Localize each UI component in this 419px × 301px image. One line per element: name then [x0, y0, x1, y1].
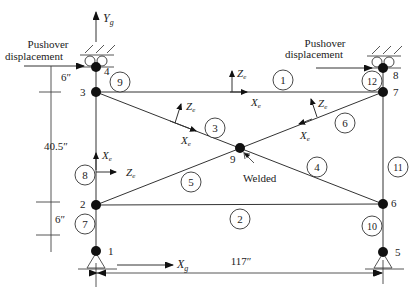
svg-text:2: 2 — [237, 213, 243, 225]
node-label-5: 5 — [395, 246, 401, 258]
node-label-9: 9 — [230, 153, 236, 165]
node-label-2: 2 — [80, 198, 86, 210]
dim-arrow-left-icon — [97, 270, 106, 277]
horizontal-dimension: 117″ — [96, 255, 383, 287]
dim-height: 40.5″ — [44, 140, 68, 152]
node-3 — [91, 87, 101, 97]
pushover-right: Pushover displacement — [285, 37, 372, 68]
element-label-5: 5 — [181, 172, 201, 192]
node-5 — [378, 247, 388, 257]
welded-label: Welded — [243, 172, 277, 184]
element-label-4: 4 — [307, 157, 327, 177]
dim-top-offset: 6″ — [61, 71, 71, 83]
welded-annotation: Welded — [243, 152, 277, 184]
svg-text:11: 11 — [393, 162, 403, 173]
global-x-axis: Xg — [117, 257, 188, 273]
pushover-right-line2: displacement — [285, 48, 343, 60]
node-label-3: 3 — [80, 86, 86, 98]
global-y-sub: g — [110, 18, 114, 27]
dim-arrow-right-icon — [373, 270, 382, 277]
pushover-left: Pushover displacement — [5, 38, 84, 66]
dim-width: 117″ — [231, 255, 252, 267]
frame-diagram: Yg Pushover disp — [0, 0, 419, 301]
svg-text:9: 9 — [117, 76, 123, 88]
svg-text:6: 6 — [342, 117, 348, 129]
element-label-3: 3 — [205, 118, 225, 138]
global-x-sub: g — [184, 264, 188, 273]
svg-text:1: 1 — [280, 74, 286, 86]
pushover-left-line1: Pushover — [28, 38, 69, 50]
node-6 — [378, 199, 388, 209]
svg-text:5: 5 — [188, 176, 194, 188]
node-1 — [91, 246, 101, 256]
svg-text:Ze: Ze — [237, 67, 246, 81]
svg-text:10: 10 — [367, 221, 377, 232]
svg-text:Ze: Ze — [318, 97, 327, 111]
node-label-1: 1 — [108, 245, 114, 257]
svg-text:Xe: Xe — [180, 134, 191, 148]
node-label-7: 7 — [393, 86, 399, 98]
svg-text:Xe: Xe — [299, 129, 310, 143]
element-label-6: 6 — [335, 113, 355, 133]
global-y-axis: Yg — [96, 11, 114, 42]
element-label-10: 10 — [362, 216, 382, 236]
local-axes-element-3: Ze Xe — [170, 100, 196, 148]
svg-text:Yg: Yg — [103, 11, 114, 27]
element-labels: 1 2 3 4 5 6 7 8 9 10 11 12 — [75, 70, 408, 236]
node-label-8: 8 — [393, 69, 399, 81]
node-label-4: 4 — [104, 65, 110, 77]
pushover-left-line2: displacement — [5, 50, 63, 62]
svg-text:Xg: Xg — [176, 257, 188, 273]
svg-text:7: 7 — [82, 218, 88, 230]
element-label-7: 7 — [75, 214, 95, 234]
element-label-1: 1 — [273, 70, 293, 90]
node-2 — [91, 200, 101, 210]
node-7 — [378, 87, 388, 97]
svg-text:Xe: Xe — [250, 96, 261, 110]
node-label-6: 6 — [391, 197, 397, 209]
node-4 — [91, 62, 101, 72]
svg-text:12: 12 — [367, 76, 377, 87]
svg-text:3: 3 — [212, 122, 218, 134]
element-label-9: 9 — [110, 72, 130, 92]
svg-text:4: 4 — [314, 161, 320, 173]
element-label-12: 12 — [362, 71, 382, 91]
node-8 — [378, 63, 388, 73]
element-label-8: 8 — [75, 165, 95, 185]
svg-text:Ze: Ze — [126, 166, 135, 180]
local-axes-element-8: Xe Ze — [96, 149, 135, 180]
svg-text:Ze: Ze — [186, 100, 195, 114]
element-label-2: 2 — [230, 209, 250, 229]
element-label-11: 11 — [388, 157, 408, 177]
bottom-beam — [96, 204, 383, 205]
svg-text:Xe: Xe — [101, 149, 112, 163]
dim-bottom-offset: 6″ — [55, 213, 65, 225]
vertical-dimensions: 6″ 40.5″ 6″ — [36, 66, 71, 252]
node-9 — [235, 143, 245, 153]
local-axes-element-1: Ze Xe — [230, 67, 261, 110]
svg-text:8: 8 — [82, 169, 88, 181]
